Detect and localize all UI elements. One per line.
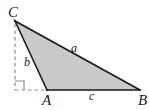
vertex-point-a [46, 89, 48, 91]
triangle-shape [15, 21, 140, 90]
side-label-b: b [24, 56, 30, 68]
vertex-label-c: C [8, 5, 18, 20]
side-label-c: c [89, 90, 94, 102]
vertex-point-c [14, 20, 16, 22]
triangle-diagram-canvas [0, 0, 149, 110]
vertex-label-a: A [42, 93, 51, 108]
side-label-a: a [71, 42, 77, 54]
vertex-label-b: B [138, 93, 147, 108]
triangle-diagram: C A B a b c [0, 0, 149, 110]
vertex-point-b [139, 89, 141, 91]
right-angle-marker [15, 81, 24, 90]
